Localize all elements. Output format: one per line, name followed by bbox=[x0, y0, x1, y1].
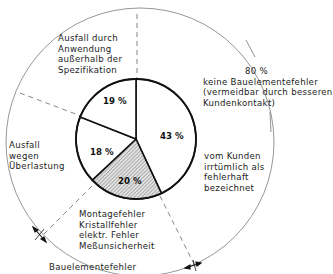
pie-label-20: 20 % bbox=[118, 176, 142, 186]
text-line: außerhalb der bbox=[58, 54, 122, 65]
text-line: Ausfall durch bbox=[58, 33, 122, 44]
arrow-mark-left bbox=[33, 227, 46, 242]
leader-line-80-top bbox=[246, 40, 255, 57]
text-line: vom Kunden bbox=[204, 151, 265, 162]
label-overload: Ausfall wegen Überlastung bbox=[9, 140, 65, 172]
text-line: Ausfall bbox=[9, 140, 65, 151]
text-line: Meßunsicherheit bbox=[79, 241, 155, 252]
pie-label-18: 18 % bbox=[90, 147, 114, 157]
label-customer-error: vom Kunden irrtümlich als fehlerhaft bez… bbox=[204, 151, 265, 193]
dashed-divider-left bbox=[20, 93, 81, 116]
text-line: wegen bbox=[9, 151, 65, 162]
text-line: Montagefehler bbox=[79, 209, 155, 220]
text-line: (vermeidbar durch besseren bbox=[203, 87, 333, 98]
text-line: irrtümlich als bbox=[204, 162, 265, 173]
text-line: fehlerhaft bbox=[204, 172, 265, 183]
text-line: elektr. Fehler bbox=[79, 230, 155, 241]
label-component-faults: Bauelementefehler bbox=[49, 262, 136, 273]
pie-label-19: 19 % bbox=[103, 96, 127, 106]
outer-percent: 80 % bbox=[203, 66, 333, 77]
text-line: bezeichnet bbox=[204, 183, 265, 194]
dashed-divider-lower-right bbox=[160, 196, 196, 268]
text-line: Anwendung bbox=[58, 44, 122, 55]
text-line: keine Bauelementefehler bbox=[203, 77, 333, 88]
text-line: Kundenkontakt) bbox=[203, 98, 333, 109]
text-line: Überlastung bbox=[9, 161, 65, 172]
text-line: Spezifikation bbox=[58, 65, 122, 76]
label-specification: Ausfall durch Anwendung außerhalb der Sp… bbox=[58, 33, 122, 75]
label-no-component-fault: 80 % keine Bauelementefehler (vermeidbar… bbox=[203, 66, 333, 108]
text-line: Kristallfehler bbox=[79, 220, 155, 231]
pie-label-43: 43 % bbox=[160, 131, 184, 141]
label-component-faults-detail: Montagefehler Kristallfehler elektr. Feh… bbox=[79, 209, 155, 251]
